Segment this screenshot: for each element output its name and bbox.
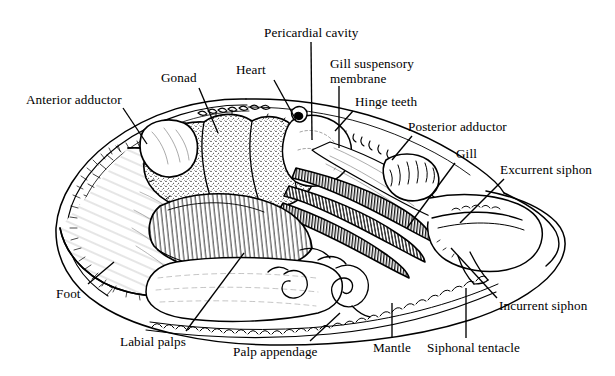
leader-hinge-teeth xyxy=(335,111,353,131)
label-palp-appendage: Palp appendage xyxy=(233,345,318,360)
label-pericardial-cavity: Pericardial cavity xyxy=(264,26,358,41)
anterior-adductor-muscle xyxy=(140,120,198,177)
label-siphonal-tentacle: Siphonal tentacle xyxy=(427,341,520,356)
label-anterior-adductor: Anterior adductor xyxy=(26,93,122,108)
leader-anterior-adductor xyxy=(123,108,147,144)
label-gill-suspensory-membrane: Gill suspensory membrane xyxy=(330,56,414,87)
label-mantle: Mantle xyxy=(373,341,411,356)
label-hinge-teeth: Hinge teeth xyxy=(355,95,417,110)
heart-ventricle xyxy=(292,106,308,122)
siphon-pair xyxy=(428,195,543,284)
figure-canvas: Anterior adductorGonadHeartPericardial c… xyxy=(0,0,615,376)
bivalve-anatomy-illustration xyxy=(0,0,615,376)
label-gill: Gill xyxy=(456,147,477,162)
label-heart: Heart xyxy=(236,63,266,78)
mantle-lobe xyxy=(146,258,342,322)
label-labial-palps: Labial palps xyxy=(120,335,186,350)
label-foot: Foot xyxy=(56,287,81,302)
label-incurrent-siphon: Incurrent siphon xyxy=(499,299,587,314)
label-gonad: Gonad xyxy=(161,71,197,86)
label-excurrent-siphon: Excurrent siphon xyxy=(500,163,592,178)
label-posterior-adductor: Posterior adductor xyxy=(408,120,507,135)
